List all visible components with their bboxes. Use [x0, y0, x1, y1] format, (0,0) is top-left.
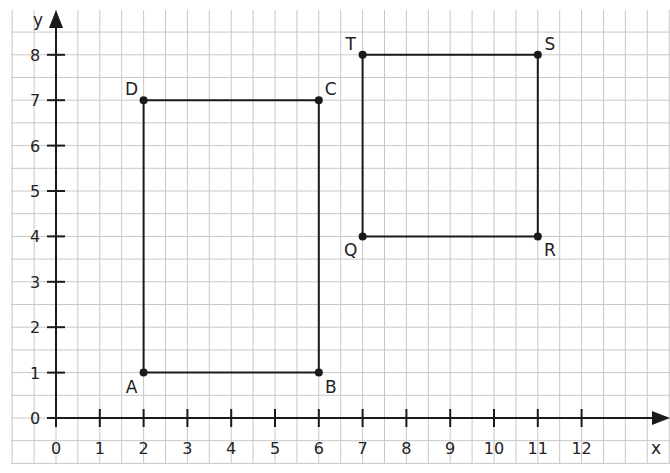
y-axis-label: y [33, 10, 43, 30]
grid-canvas: xy 0123456789101112012345678 ABCDQRST [0, 0, 670, 473]
vertex-label-r: R [544, 240, 556, 260]
y-tick-label: 6 [30, 137, 40, 156]
x-tick-label: 8 [401, 439, 411, 458]
y-tick-label: 0 [30, 409, 40, 428]
coordinate-grid-diagram: xy 0123456789101112012345678 ABCDQRST [0, 0, 670, 473]
y-tick-label: 5 [30, 182, 40, 201]
x-tick-label: 9 [445, 439, 455, 458]
x-tick-label: 7 [358, 439, 368, 458]
axis-ticks: 0123456789101112012345678 [30, 46, 592, 458]
x-tick-label: 5 [270, 439, 280, 458]
vertex-label-a: A [126, 377, 138, 397]
y-tick-label: 1 [30, 364, 40, 383]
x-tick-label: 12 [571, 439, 591, 458]
x-axis-label: x [651, 438, 661, 458]
vertex-dot-d [140, 96, 148, 104]
x-tick-label: 1 [95, 439, 105, 458]
vertex-label-c: C [325, 79, 337, 99]
vertex-label-q: Q [344, 240, 357, 260]
x-tick-label: 0 [51, 439, 61, 458]
y-tick-label: 7 [30, 91, 40, 110]
x-tick-label: 11 [528, 439, 548, 458]
grid-lines [11, 10, 670, 463]
vertex-dot-r [534, 232, 542, 240]
x-tick-label: 3 [182, 439, 192, 458]
vertex-label-t: T [344, 34, 356, 54]
x-tick-label: 2 [139, 439, 149, 458]
x-tick-label: 6 [314, 439, 324, 458]
y-tick-label: 3 [30, 273, 40, 292]
vertex-dot-s [534, 51, 542, 59]
vertex-label-b: B [325, 377, 337, 397]
vertex-dot-b [315, 369, 323, 377]
y-tick-label: 4 [30, 227, 40, 246]
vertex-dot-a [140, 369, 148, 377]
x-axis-arrow-icon [652, 411, 670, 425]
y-tick-label: 8 [30, 46, 40, 65]
x-tick-label: 10 [484, 439, 504, 458]
vertex-dot-c [315, 96, 323, 104]
vertex-dot-t [359, 51, 367, 59]
y-axis-arrow-icon [49, 10, 63, 28]
vertex-dot-q [359, 232, 367, 240]
x-tick-label: 4 [226, 439, 236, 458]
vertex-label-d: D [125, 79, 138, 99]
y-tick-label: 2 [30, 318, 40, 337]
vertex-label-s: S [544, 34, 555, 54]
